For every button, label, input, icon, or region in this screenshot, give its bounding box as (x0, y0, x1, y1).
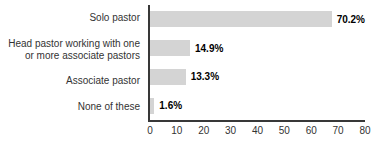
x-tick-label: 10 (171, 125, 182, 136)
x-tick-label: 60 (306, 125, 317, 136)
x-tick-label: 20 (198, 125, 209, 136)
value-label: 70.2% (337, 14, 365, 25)
x-tick-label: 70 (333, 125, 344, 136)
bar (150, 69, 186, 85)
x-tick-label: 30 (225, 125, 236, 136)
bar-row: 13.3% (150, 68, 365, 85)
category-label: Associate pastor (0, 75, 140, 87)
category-label: Solo pastor (0, 12, 140, 24)
category-labels-column: Solo pastorHead pastor working with oneo… (0, 5, 144, 120)
x-axis: 01020304050607080 (150, 125, 365, 139)
value-label: 1.6% (159, 100, 182, 111)
value-label: 14.9% (195, 43, 223, 54)
value-label: 13.3% (191, 71, 219, 82)
plot-area: 70.2%14.9%13.3%1.6% (148, 5, 365, 122)
category-label: Head pastor working with oneor more asso… (0, 38, 140, 62)
category-label: None of these (0, 101, 140, 113)
bar-chart: Solo pastorHead pastor working with oneo… (0, 0, 379, 142)
x-tick-label: 80 (359, 125, 370, 136)
bar-row: 70.2% (150, 11, 365, 28)
bar-row: 1.6% (150, 97, 365, 114)
x-tick-label: 40 (252, 125, 263, 136)
bar-row: 14.9% (150, 40, 365, 57)
bar (150, 40, 190, 56)
x-tick-label: 0 (147, 125, 153, 136)
bar (150, 98, 154, 114)
x-tick-label: 50 (279, 125, 290, 136)
bar (150, 11, 332, 27)
